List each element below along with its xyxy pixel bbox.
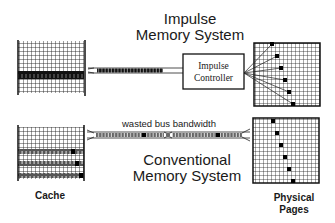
cache-label: Cache — [20, 190, 80, 202]
impulse-title-line1: Impulse — [125, 11, 255, 27]
physical-pages-line1: Physical — [262, 192, 326, 204]
impulse-cache — [18, 40, 85, 96]
conventional-physical-pages — [253, 118, 319, 183]
controller-label-line2: Controller — [183, 72, 244, 84]
impulse-physical-pages — [244, 42, 320, 106]
conventional-title-line2: Memory System — [112, 168, 262, 184]
conventional-bus — [87, 129, 250, 141]
impulse-title: Impulse Memory System — [125, 11, 255, 43]
physical-pages-label: Physical Pages — [262, 192, 326, 216]
controller-label-line1: Impulse — [183, 60, 244, 72]
wasted-bandwidth-annotation: wasted bus bandwidth — [122, 118, 262, 129]
conventional-cache — [18, 125, 84, 181]
impulse-title-line2: Memory System — [125, 27, 255, 43]
physical-pages-line2: Pages — [262, 204, 326, 216]
conventional-title-line1: Conventional — [112, 152, 262, 168]
conventional-title: Conventional Memory System — [112, 152, 262, 184]
impulse-bus — [88, 68, 183, 73]
impulse-controller-label: Impulse Controller — [183, 60, 244, 84]
